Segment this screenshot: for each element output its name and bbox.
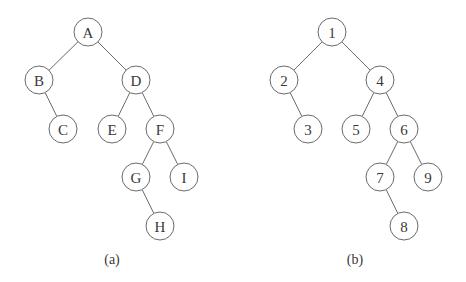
tree-node-F: F (146, 115, 174, 143)
caption-b: (b) (347, 252, 364, 268)
tree-node-7: 7 (366, 163, 394, 191)
edge-F-I (166, 142, 177, 165)
tree-node-B: B (25, 66, 53, 94)
tree-node-2: 2 (270, 66, 298, 94)
edge-4-6 (386, 93, 398, 117)
node-label: E (107, 122, 116, 138)
node-label: 6 (400, 122, 408, 138)
tree-node-E: E (98, 115, 126, 143)
tree-node-H: H (146, 212, 174, 240)
tree-node-A: A (74, 18, 102, 46)
tree-a: ABDCEFGIH(a) (25, 18, 198, 268)
node-label: 8 (400, 219, 408, 235)
node-label: 7 (376, 170, 384, 186)
edge-1-2 (294, 42, 322, 70)
edge-D-E (118, 93, 130, 117)
tree-node-6: 6 (390, 115, 418, 143)
caption-a: (a) (104, 252, 120, 268)
tree-b: 124356798(b) (270, 18, 442, 268)
node-label: 2 (280, 73, 288, 89)
edge-D-F (142, 93, 154, 117)
node-label: 4 (376, 73, 384, 89)
edge-A-D (98, 42, 126, 70)
tree-node-1: 1 (318, 18, 346, 46)
tree-node-4: 4 (366, 66, 394, 94)
edge-B-C (45, 93, 57, 117)
node-label: 1 (328, 25, 336, 41)
node-label: 5 (352, 122, 360, 138)
node-label: C (58, 122, 68, 138)
node-label: F (156, 122, 164, 138)
node-label: B (34, 73, 44, 89)
node-label: D (131, 73, 142, 89)
tree-node-5: 5 (342, 115, 370, 143)
tree-node-D: D (122, 66, 150, 94)
tree-node-I: I (170, 163, 198, 191)
tree-diagram-canvas: ABDCEFGIH(a)124356798(b) (0, 0, 466, 282)
tree-node-C: C (49, 115, 77, 143)
binary-tree-figure: ABDCEFGIH(a)124356798(b) (0, 0, 466, 282)
edge-4-5 (362, 93, 374, 117)
edge-A-B (49, 42, 78, 70)
node-label: 9 (424, 170, 432, 186)
node-label: A (83, 25, 94, 41)
edge-2-3 (290, 93, 302, 117)
node-label: I (182, 170, 187, 186)
tree-node-3: 3 (294, 115, 322, 143)
node-label: G (131, 170, 142, 186)
edge-6-7 (386, 142, 397, 165)
tree-node-8: 8 (390, 212, 418, 240)
node-label: 3 (304, 122, 312, 138)
edge-F-G (142, 142, 153, 165)
tree-node-G: G (122, 163, 150, 191)
edge-G-H (142, 190, 154, 214)
edge-7-8 (386, 190, 398, 214)
tree-node-9: 9 (414, 163, 442, 191)
node-label: H (155, 219, 166, 235)
edge-6-9 (410, 142, 421, 165)
edge-1-4 (342, 42, 370, 70)
